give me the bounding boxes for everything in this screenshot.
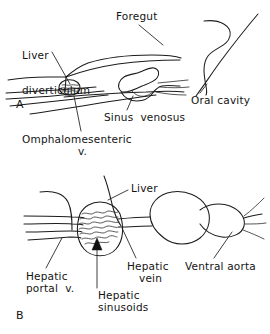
label-liver-diverticulum-line2: diverticulum bbox=[22, 85, 90, 97]
label-hepatic-vein-line1: Hepatic bbox=[127, 261, 169, 273]
hepatic-portal-vein-line-1 bbox=[24, 216, 84, 218]
label-hepatic-portal-vein-line1: Hepatic bbox=[26, 271, 68, 283]
figure-root: Foregut Liver diverticulum Oral cavity S… bbox=[0, 0, 270, 334]
label-liver-diverticulum: Liver diverticulum bbox=[22, 27, 90, 119]
label-omphalomesenteric-vein-line2: v. bbox=[78, 146, 87, 158]
leader-hepatic-vein bbox=[122, 228, 136, 258]
label-omphalomesenteric-vein-line1: Omphalomesenteric bbox=[22, 134, 132, 146]
hepatic-portal-vein-line-2 bbox=[24, 224, 83, 225]
panel-letter-a: A bbox=[16, 99, 24, 111]
heart-ventricle-outline bbox=[200, 204, 244, 237]
label-liver: Liver bbox=[131, 183, 158, 195]
vitelline-branch-upper bbox=[158, 80, 188, 83]
label-hepatic-sinusoids-line2: sinusoids bbox=[98, 302, 148, 314]
label-sinus-venosus: Sinus venosus bbox=[104, 112, 185, 124]
label-ventral-aorta: Ventral aorta bbox=[185, 261, 256, 273]
sinus-venosus-outline bbox=[119, 68, 159, 92]
panel-letter-b: B bbox=[16, 310, 24, 322]
leader-liver-b bbox=[108, 190, 128, 200]
label-hepatic-portal-vein-line2: portal v. bbox=[26, 283, 74, 295]
aortic-arch-branch-1 bbox=[244, 198, 264, 216]
hepatic-portal-vein-line-3 bbox=[26, 231, 82, 232]
hepatic-vein-line-upper bbox=[118, 217, 150, 219]
leader-hepatic-portal bbox=[46, 238, 62, 268]
hepatic-vein-line-lower bbox=[119, 226, 152, 227]
vitelline-branch-lower bbox=[156, 92, 186, 95]
hepatic-portal-vein-line-4 bbox=[28, 237, 81, 240]
label-foregut: Foregut bbox=[116, 11, 157, 23]
hepatic-sinusoid-squiggle-4 bbox=[79, 226, 119, 229]
hepatic-sinusoid-squiggle-5 bbox=[80, 231, 118, 234]
aortic-arch-branch-2 bbox=[245, 223, 266, 224]
ventral-aorta-outflow bbox=[244, 214, 262, 218]
label-hepatic-sinusoids-line1: Hepatic bbox=[98, 290, 140, 302]
label-hepatic-vein-line2: vein bbox=[139, 273, 162, 285]
hepatic-sinusoid-squiggle-1 bbox=[82, 211, 118, 214]
hepatic-sinusoid-flow-arrowhead bbox=[92, 238, 102, 250]
oral-cavity-curve bbox=[204, 21, 230, 95]
leader-foregut bbox=[139, 25, 163, 45]
vitelline-branch-middle bbox=[160, 87, 189, 88]
hepatic-sinusoid-squiggle-6 bbox=[82, 236, 117, 239]
hepatic-sinusoid-squiggle-2 bbox=[80, 216, 118, 219]
label-oral-cavity: Oral cavity bbox=[191, 95, 250, 107]
heart-atrium-outline bbox=[150, 192, 209, 244]
label-liver-diverticulum-line1: Liver bbox=[22, 50, 90, 62]
hepatic-sinusoid-squiggle-3 bbox=[79, 221, 119, 224]
aortic-arch-branch-3 bbox=[243, 230, 264, 239]
